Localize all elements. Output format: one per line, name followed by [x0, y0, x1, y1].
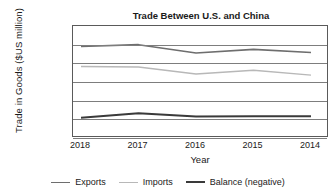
series-line-balance-negative [81, 113, 311, 117]
legend-item[interactable]: Balance (negative) [186, 177, 285, 187]
gridline [73, 101, 327, 102]
plot-area [72, 25, 328, 137]
chart-legend: ExportsImportsBalance (negative) [0, 174, 336, 190]
series-line-imports [81, 67, 311, 76]
x-tick-label: 2014 [285, 140, 335, 150]
x-axis-title: Year [72, 154, 328, 165]
gridline [73, 45, 327, 46]
legend-swatch-line-icon [119, 182, 138, 183]
gridline [73, 119, 327, 120]
chart-container: Trade in Goods ($US million) Trade Betwe… [0, 0, 336, 196]
gridline [73, 63, 327, 64]
legend-swatch-line-icon [186, 181, 205, 183]
gridline [73, 138, 327, 139]
legend-label: Exports [75, 177, 106, 187]
gridline [73, 82, 327, 83]
legend-item[interactable]: Exports [51, 177, 106, 187]
legend-label: Balance (negative) [210, 177, 285, 187]
x-axis-tick-labels: 20182017201620152014 [72, 140, 328, 154]
legend-item[interactable]: Imports [119, 177, 173, 187]
x-tick-label: 2016 [170, 140, 220, 150]
legend-label: Imports [143, 177, 173, 187]
legend-swatch-line-icon [51, 182, 70, 183]
x-tick-label: 2017 [113, 140, 163, 150]
x-tick-label: 2018 [55, 140, 105, 150]
series-line-exports [81, 45, 311, 53]
x-tick-label: 2015 [228, 140, 278, 150]
